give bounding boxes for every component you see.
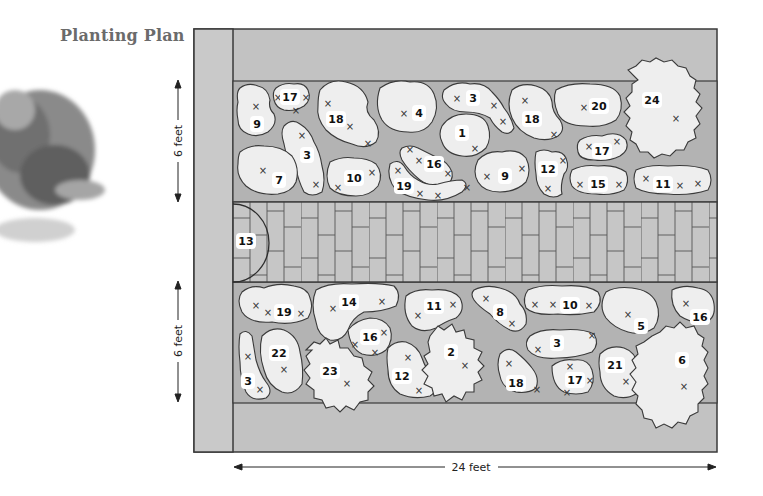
svg-text:×: × xyxy=(297,308,305,319)
svg-text:×: × xyxy=(416,188,424,199)
svg-text:23: 23 xyxy=(322,365,337,378)
svg-text:×: × xyxy=(471,143,479,154)
svg-text:×: × xyxy=(694,178,702,189)
svg-text:3: 3 xyxy=(244,375,252,388)
svg-text:18: 18 xyxy=(508,377,523,390)
svg-text:×: × xyxy=(444,168,452,179)
svg-text:×: × xyxy=(312,179,320,190)
total-length-label: 24 feet xyxy=(451,461,491,474)
plant-label: 17 xyxy=(565,372,585,388)
svg-text:12: 12 xyxy=(394,370,409,383)
svg-text:×: × xyxy=(434,190,442,201)
plant-label: 11 xyxy=(424,298,444,314)
svg-text:×: × xyxy=(676,180,684,191)
svg-text:×: × xyxy=(415,155,423,166)
plant-label: 17 xyxy=(592,143,612,159)
plant-label: 2 xyxy=(444,344,458,360)
svg-text:×: × xyxy=(351,339,359,350)
svg-text:×: × xyxy=(672,113,680,124)
brick-path xyxy=(233,202,717,282)
svg-text:3: 3 xyxy=(469,92,477,105)
plant-label: 11 xyxy=(653,176,673,192)
svg-text:×: × xyxy=(566,361,574,372)
svg-text:10: 10 xyxy=(346,172,362,185)
svg-text:3: 3 xyxy=(303,149,311,162)
plant-label: 16 xyxy=(424,156,444,172)
svg-text:×: × xyxy=(680,381,688,392)
svg-text:×: × xyxy=(586,375,594,386)
svg-text:11: 11 xyxy=(655,178,670,191)
svg-text:×: × xyxy=(682,298,690,309)
svg-text:×: × xyxy=(259,165,267,176)
svg-text:×: × xyxy=(368,167,376,178)
svg-text:×: × xyxy=(482,293,490,304)
plant-label: 18 xyxy=(506,375,526,391)
svg-text:×: × xyxy=(252,300,260,311)
plant-label: 12 xyxy=(538,161,558,177)
plant-label: 10 xyxy=(560,297,580,313)
plant-label: 17 xyxy=(280,89,300,105)
plant-label: 9 xyxy=(498,168,512,184)
svg-text:×: × xyxy=(483,171,491,182)
svg-text:4: 4 xyxy=(415,107,423,120)
svg-text:3: 3 xyxy=(553,337,561,350)
svg-text:×: × xyxy=(463,182,471,193)
svg-text:×: × xyxy=(334,182,342,193)
svg-text:×: × xyxy=(550,129,558,140)
svg-text:×: × xyxy=(380,327,388,338)
svg-text:9: 9 xyxy=(253,118,261,131)
svg-text:×: × xyxy=(622,376,630,387)
svg-text:1: 1 xyxy=(458,127,466,140)
svg-text:×: × xyxy=(588,330,596,341)
svg-text:×: × xyxy=(559,155,567,166)
svg-text:×: × xyxy=(302,92,310,103)
svg-text:16: 16 xyxy=(362,331,378,344)
svg-text:16: 16 xyxy=(426,158,442,171)
svg-text:×: × xyxy=(521,95,529,106)
svg-text:×: × xyxy=(624,309,632,320)
lower-bed-depth-label: 6 feet xyxy=(172,324,185,357)
svg-text:14: 14 xyxy=(341,296,357,309)
svg-text:×: × xyxy=(615,179,623,190)
svg-text:8: 8 xyxy=(496,306,504,319)
svg-text:×: × xyxy=(505,358,513,369)
svg-text:×: × xyxy=(518,163,526,174)
plant-label: 7 xyxy=(272,172,286,188)
svg-text:×: × xyxy=(252,101,260,112)
plant-label: 23 xyxy=(320,363,340,379)
svg-text:×: × xyxy=(256,384,264,395)
svg-text:×: × xyxy=(329,303,337,314)
svg-text:×: × xyxy=(531,299,539,310)
plant-label: 10 xyxy=(344,170,364,186)
svg-text:×: × xyxy=(244,351,252,362)
svg-text:×: × xyxy=(642,173,650,184)
plant-label: 14 xyxy=(339,294,359,310)
svg-text:18: 18 xyxy=(524,113,539,126)
svg-text:9: 9 xyxy=(501,170,509,183)
svg-text:18: 18 xyxy=(328,113,343,126)
svg-text:×: × xyxy=(449,299,457,310)
plant-label: 5 xyxy=(634,318,648,334)
svg-text:×: × xyxy=(378,296,386,307)
svg-text:11: 11 xyxy=(426,300,441,313)
plant-label: 18 xyxy=(326,111,346,127)
planting-plan-diagram: 13 xyxy=(0,0,763,496)
upper-bed-depth-label: 6 feet xyxy=(172,124,185,157)
plant-label: 22 xyxy=(269,345,289,361)
svg-text:24: 24 xyxy=(644,94,660,107)
plant-label: 8 xyxy=(493,304,507,320)
svg-text:×: × xyxy=(499,116,507,127)
svg-text:×: × xyxy=(461,360,469,371)
plant-label: 19 xyxy=(394,178,414,194)
svg-text:×: × xyxy=(406,144,414,155)
house-wall xyxy=(194,29,233,452)
svg-text:21: 21 xyxy=(607,359,622,372)
svg-text:×: × xyxy=(400,108,408,119)
path-feature-label: 13 xyxy=(236,233,256,249)
svg-text:5: 5 xyxy=(637,320,645,333)
svg-text:×: × xyxy=(533,384,541,395)
plant-label: 1 xyxy=(455,125,469,141)
plant-label: 15 xyxy=(588,176,608,192)
svg-text:×: × xyxy=(415,385,423,396)
svg-text:×: × xyxy=(324,98,332,109)
